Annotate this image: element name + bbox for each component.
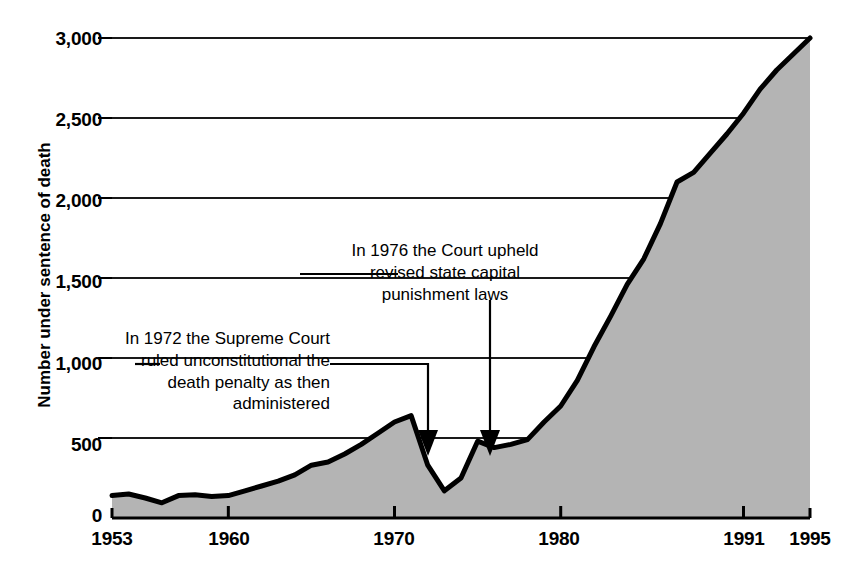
y-tick-label-2000: 2,000 [10, 190, 102, 212]
annotation-1976-court-upheld: In 1976 the Court upheld revised state c… [320, 240, 570, 305]
x-tick-label-1980: 1980 [519, 528, 599, 550]
y-tick-label-500: 500 [10, 434, 102, 456]
annotation-1972-supreme-court: In 1972 the Supreme Court ruled unconsti… [120, 328, 330, 415]
x-tick-label-1970: 1970 [354, 528, 434, 550]
x-tick-label-1953: 1953 [72, 528, 152, 550]
chart-figure: Number under sentence of death 3,000 2,5… [0, 0, 845, 580]
y-tick-label-2500: 2,500 [10, 109, 102, 131]
y-tick-label-3000: 3,000 [10, 28, 102, 50]
y-tick-label-1000: 1,000 [10, 353, 102, 375]
y-tick-label-0: 0 [10, 505, 102, 527]
y-tick-label-1500: 1,500 [10, 271, 102, 293]
x-tick-label-1960: 1960 [189, 528, 269, 550]
x-tick-label-1995: 1995 [770, 528, 845, 550]
y-axis-tick-dashes [98, 38, 112, 438]
